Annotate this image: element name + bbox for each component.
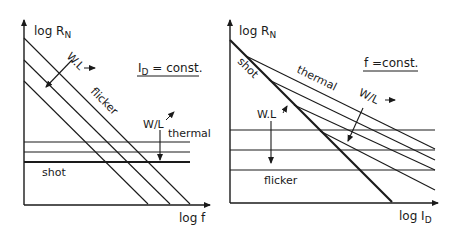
noise-diagrams: log RN ID = const. W.L flicker W/L therm… [0,0,456,233]
left-y-label: log RN [34,24,71,40]
left-wl-product-label: W.L [64,50,87,73]
right-y-label: log RN [239,24,276,40]
left-flicker-label: flicker [88,85,121,118]
thermal-line-4 [320,131,435,190]
wl-product-direction-arrow [283,106,287,113]
right-thermal-label: thermal [295,63,339,93]
right-wl-ratio-label: W/L [357,86,382,107]
left-thermal-label: thermal [168,127,211,140]
left-x-label: log f [179,211,206,225]
right-flicker-label: flicker [264,174,298,187]
flicker-line-2 [24,60,170,204]
right-x-label: log ID [399,209,432,225]
left-wl-ratio-label: W/L [143,118,165,131]
left-condition: ID = const. [138,61,202,77]
right-shot-label: shot [235,55,261,81]
left-shot-label: shot [42,166,66,179]
right-condition: f =const. [364,56,418,70]
right-wl-product-label: W.L [257,108,277,121]
wl-ratio-direction-arrow [166,112,174,120]
